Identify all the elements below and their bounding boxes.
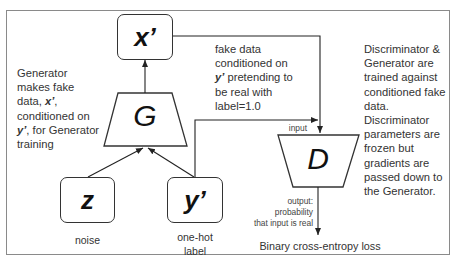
y-prime-node: y’ (167, 177, 223, 223)
loss-label: Binary cross-entropy loss (250, 239, 390, 253)
input-label: input (275, 123, 307, 134)
y-prime-label: y’ (184, 185, 206, 216)
noise-node: z (60, 177, 115, 223)
noise-node-label: z (81, 185, 94, 216)
discriminator-label: D (298, 142, 338, 176)
y-prime-caption-line2: label (160, 244, 230, 258)
noise-caption: noise (60, 233, 115, 247)
y-prime-caption-line1: one-hot (160, 230, 230, 244)
generator-note: Generator makes fake data, x’, condition… (17, 66, 117, 151)
fake-data-note: fake data conditioned on y’ pretending t… (215, 42, 315, 113)
y-prime-caption: one-hot label (160, 230, 230, 258)
discriminator-note: Discriminator & Generator are trained ag… (364, 42, 452, 198)
output-note: output: probability that input is real (230, 196, 313, 229)
generator-label: G (125, 99, 165, 133)
x-prime-label: x’ (134, 22, 156, 53)
x-prime-node: x’ (117, 14, 173, 60)
